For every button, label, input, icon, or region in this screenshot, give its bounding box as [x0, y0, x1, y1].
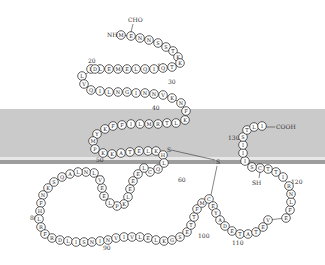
- svg-text:E: E: [100, 185, 104, 191]
- residue: E: [282, 214, 291, 223]
- residue: S: [248, 163, 257, 172]
- residue: E: [98, 184, 107, 193]
- svg-text:E: E: [129, 33, 133, 39]
- svg-text:V: V: [265, 217, 270, 223]
- residue: R: [154, 120, 163, 129]
- svg-text:E: E: [284, 215, 288, 221]
- residue: M: [145, 120, 154, 129]
- residue: I: [132, 89, 141, 98]
- residue: T: [190, 213, 199, 222]
- residue: E: [228, 227, 237, 236]
- residue: L: [90, 169, 99, 178]
- residue: I: [239, 141, 248, 150]
- residue: K: [160, 237, 169, 246]
- svg-text:V: V: [160, 92, 165, 98]
- svg-text:N: N: [84, 169, 89, 175]
- residue: L: [132, 65, 141, 74]
- svg-text:F: F: [39, 200, 43, 206]
- svg-text:N: N: [90, 239, 95, 245]
- residue: Q: [87, 86, 96, 95]
- residue: L: [136, 120, 145, 129]
- svg-text:V: V: [113, 235, 118, 241]
- svg-text:A: A: [118, 150, 123, 156]
- residue: T: [126, 148, 135, 157]
- svg-text:K: K: [154, 148, 158, 154]
- topology-diagram: 102030405060708090100110120130 MENNSSTKK…: [0, 0, 325, 265]
- residue: E: [100, 192, 109, 201]
- residue: K: [168, 94, 177, 103]
- residue: N: [136, 34, 145, 43]
- svg-text:Q: Q: [89, 87, 93, 93]
- residue: S: [154, 39, 163, 48]
- c-terminus-label: COOH: [276, 123, 296, 130]
- svg-text:F: F: [111, 123, 115, 129]
- position-label: 20: [88, 57, 96, 64]
- residue: H: [36, 207, 45, 216]
- svg-text:D: D: [58, 237, 62, 243]
- svg-text:K: K: [101, 150, 105, 156]
- residue: I: [258, 122, 267, 131]
- residue: L: [74, 168, 83, 177]
- residue: E: [126, 185, 135, 194]
- svg-text:F: F: [43, 231, 47, 237]
- residue: I: [120, 233, 129, 242]
- residue: E: [123, 65, 132, 74]
- svg-text:E: E: [211, 203, 215, 209]
- svg-text:M: M: [118, 32, 123, 38]
- svg-text:S: S: [52, 179, 56, 185]
- svg-text:E: E: [230, 228, 234, 234]
- svg-text:Q: Q: [60, 174, 64, 180]
- residue: F: [182, 107, 191, 116]
- svg-text:K: K: [46, 185, 50, 191]
- svg-text:F: F: [120, 122, 124, 128]
- svg-text:I: I: [130, 121, 132, 127]
- svg-text:E: E: [137, 148, 141, 154]
- svg-text:H: H: [161, 152, 166, 158]
- residue: K: [181, 116, 190, 125]
- residue: R: [285, 182, 294, 191]
- residue: L: [152, 236, 161, 245]
- svg-text:E: E: [185, 229, 189, 235]
- svg-text:D: D: [223, 223, 227, 229]
- svg-text:M: M: [115, 66, 120, 72]
- residue: L: [106, 199, 115, 208]
- residue: Q: [141, 65, 150, 74]
- svg-text:E: E: [261, 224, 265, 230]
- residue: L: [78, 72, 87, 81]
- svg-text:K: K: [122, 201, 126, 207]
- svg-text:K: K: [170, 95, 174, 101]
- svg-text:N: N: [116, 89, 121, 95]
- residue: L: [172, 119, 181, 128]
- svg-text:I: I: [75, 239, 77, 245]
- position-label: 130: [228, 134, 240, 141]
- position-label: 90: [103, 244, 111, 251]
- svg-text:A: A: [217, 217, 222, 223]
- svg-text:S: S: [178, 234, 182, 240]
- residue: T: [168, 63, 177, 72]
- n-terminus-label: NH: [107, 31, 117, 38]
- svg-text:R: R: [156, 121, 160, 127]
- svg-text:G: G: [125, 89, 129, 95]
- residue: N: [177, 99, 186, 108]
- svg-text:I: I: [242, 150, 244, 156]
- disulfide-bond: [171, 150, 215, 160]
- residue: N: [145, 36, 154, 45]
- residue: I: [127, 120, 136, 129]
- residue: Q: [154, 165, 163, 174]
- svg-text:E: E: [146, 235, 150, 241]
- residue: C: [256, 164, 265, 173]
- position-label: 110: [232, 239, 244, 246]
- residue: A: [244, 230, 253, 239]
- residue: L: [144, 147, 153, 156]
- sulfhydryl-label: SH: [252, 179, 261, 186]
- residue: Q: [58, 173, 67, 182]
- svg-text:K: K: [103, 126, 107, 132]
- svg-text:E: E: [125, 66, 129, 72]
- disulfide-s1: S: [167, 146, 171, 153]
- residue: L: [35, 215, 44, 224]
- svg-text:I: I: [99, 88, 101, 94]
- position-label: 100: [198, 232, 210, 239]
- peptide-chain: 102030405060708090100110120130 MENNSSTKK…: [0, 0, 325, 265]
- svg-text:Q: Q: [156, 166, 160, 172]
- residue: V: [159, 91, 168, 100]
